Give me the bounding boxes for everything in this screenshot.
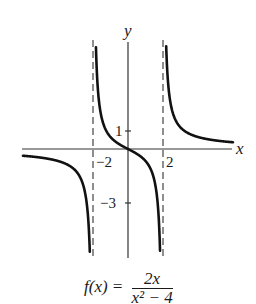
formula-denominator: x² − 4 [132, 289, 173, 304]
x-axis-label: x [236, 140, 244, 157]
tick-label-1: 1 [115, 124, 123, 139]
formula-fraction: 2x x² − 4 [132, 270, 173, 304]
tick-label-pos2: 2 [166, 155, 174, 170]
function-formula: f(x) = 2x x² − 4 [84, 270, 173, 304]
y-axis-label: y [124, 22, 132, 39]
curve-branch-right [166, 46, 233, 142]
function-graph [0, 0, 256, 304]
formula-lhs: f(x) = [84, 277, 123, 296]
tick-label-neg3: −3 [100, 196, 116, 211]
formula-numerator: 2x [132, 270, 173, 289]
curve-branch-left [23, 156, 90, 252]
tick-label-neg2: −2 [96, 155, 112, 170]
